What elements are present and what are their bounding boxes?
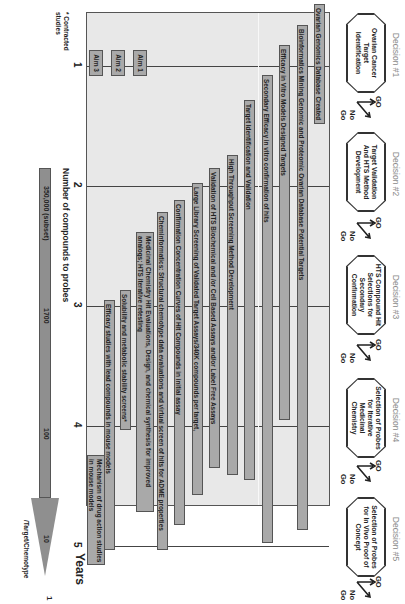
aim-2-label: Aim 2 [111,50,125,76]
compound-count-10: 10 [43,535,50,543]
target-chemotype-label: /Target/Chemotype [23,520,30,578]
compound-funnel-arrow: 350,000 (subset) 1700 100 10 [31,168,59,588]
year-tick-3: 3 [72,302,83,308]
decision-2-box: Target Validation And HTS Method Develop… [347,133,385,211]
task-bar: Confirmation Concentration Curves of Hit… [174,200,185,525]
timeline-chart-area [86,12,330,506]
task-bar: Ovarian Genomics Database Created [314,4,325,124]
task-bar: Target Identification and Validation [244,100,255,480]
decision-3-box: HTS Compound Hit Selections for Secondar… [347,256,385,334]
decision-2-label: Decision #2 [391,129,401,219]
task-bar: Efficacy studies with lead compounds in … [104,300,115,550]
drug-discovery-timeline-diagram: Decision #1 Ovarian Cancer Target Identi… [0,0,405,604]
compound-count-1: 1 [45,596,54,600]
year-tick-1: 1 [72,62,83,68]
aim-3-label: Aim 3 [89,50,103,76]
years-axis-label: Years [73,553,87,585]
compound-count-100: 100 [43,428,50,440]
contracted-footnote: * Contracted studies [54,12,70,57]
year-5-line [87,546,329,547]
task-bar: Validation of HTS Biochemical and /or Ce… [209,168,220,468]
task-bar: Secondary Efficacy in vitro confirmation… [262,75,273,543]
decision-3-label: Decision #3 [391,252,401,342]
task-bar: Large Library Screening of Validated Tar… [192,183,203,495]
year-2-line [87,186,329,187]
task-bar: Efficacy in Vitro Models Designed Target… [279,45,290,420]
year-tick-4: 4 [72,422,83,428]
task-bar: Solubility and metabolic stability scree… [120,290,131,430]
decision-5-box: Selection of Probes for In Vivo Proof of… [347,498,385,576]
go-nogo-5: GO No Go [343,576,383,604]
go-nogo-2: GO No Go [343,217,383,251]
compounds-label: Number of compounds to probes [61,168,71,302]
decision-1-label: Decision #1 [391,10,401,100]
task-bar: Bioinformatics Mining Genomic and Proteo… [297,25,308,530]
task-bar: High Throughput Screening Method Develop… [227,155,238,475]
go-nogo-4: GO No Go [343,460,383,494]
decision-4-box: Selection of Probes for Iterative Medici… [347,379,385,457]
go-nogo-1: GO No Go [343,96,383,130]
decision-4-label: Decision #4 [391,375,401,465]
aim-1-label: Aim 1 [133,50,147,76]
year-tick-5: 5 [72,542,83,548]
task-bar: Mechanism of drug action studies in mous… [87,455,105,565]
go-nogo-3: GO No Go [343,339,383,373]
compound-count-1700: 1700 [43,308,50,324]
task-bar: Medicinal Chemistry Hit Evaluations, Des… [136,232,154,512]
decision-5-label: Decision #5 [391,494,401,584]
compound-count-350000: 350,000 (subset) [43,186,50,240]
task-bar: Cheminformatics: Structural chemotype da… [157,212,168,550]
year-tick-2: 2 [72,182,83,188]
decision-1-box: Ovarian Cancer Target Identification [347,14,385,92]
